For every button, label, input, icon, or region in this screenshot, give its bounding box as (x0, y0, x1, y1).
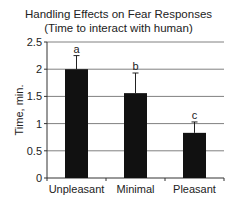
bar-chart: 00.511.522.5Time, min.aUnpleasantbMinima… (0, 0, 237, 209)
significance-letter: c (192, 109, 198, 121)
bar-minimal (124, 93, 147, 178)
y-tick-label: 2.5 (27, 36, 42, 48)
y-tick-label: 0.5 (27, 145, 42, 157)
y-tick-label: 2 (36, 63, 42, 75)
x-category-label: Minimal (117, 183, 155, 195)
x-category-label: Pleasant (173, 183, 216, 195)
x-category-label: Unpleasant (49, 183, 105, 195)
y-tick-label: 0 (36, 172, 42, 184)
y-tick-label: 1.5 (27, 90, 42, 102)
bar-unpleasant (65, 69, 88, 178)
y-tick-label: 1 (36, 118, 42, 130)
significance-letter: a (73, 43, 80, 55)
significance-letter: b (132, 60, 138, 72)
y-axis-label: Time, min. (13, 85, 25, 136)
bar-pleasant (183, 133, 206, 178)
